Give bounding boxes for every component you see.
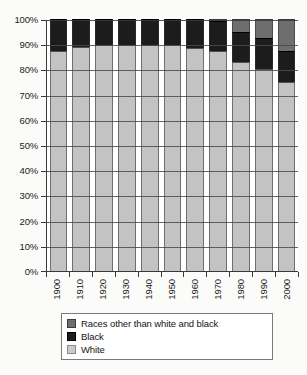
bar-segment-black bbox=[232, 32, 250, 61]
legend-swatch-icon bbox=[67, 319, 76, 328]
bar-segment-black bbox=[141, 19, 159, 45]
bar-segment-other-races bbox=[209, 19, 227, 21]
y-tick-label: 20% bbox=[20, 217, 38, 227]
x-label-slot: 1970 bbox=[206, 278, 229, 310]
x-tick-mark bbox=[275, 272, 276, 277]
x-tick-label: 1920 bbox=[99, 279, 109, 300]
bar-segment-black bbox=[278, 51, 296, 82]
x-tick-mark bbox=[183, 272, 184, 277]
bar-segment-white bbox=[141, 45, 159, 271]
bar-segment-white bbox=[255, 69, 273, 271]
bar-stack[interactable] bbox=[141, 20, 159, 271]
x-label-slot: 2000 bbox=[275, 278, 298, 310]
bar-slot bbox=[70, 20, 93, 271]
x-tick-label: 1970 bbox=[213, 279, 223, 300]
x-tick-label: 1950 bbox=[167, 279, 177, 300]
y-axis-ticks bbox=[41, 20, 47, 272]
bars-layer bbox=[47, 20, 298, 271]
bar-segment-black bbox=[186, 19, 204, 48]
bar-stack[interactable] bbox=[232, 20, 250, 271]
y-tick-mark bbox=[41, 20, 46, 21]
bar-slot bbox=[47, 20, 70, 271]
y-tick-label: 100% bbox=[15, 15, 39, 25]
y-tick-label: 10% bbox=[20, 242, 38, 252]
bar-slot bbox=[93, 20, 116, 271]
bar-stack[interactable] bbox=[95, 20, 113, 271]
x-tick-mark bbox=[69, 272, 70, 277]
bar-stack[interactable] bbox=[50, 20, 68, 271]
x-tick-label: 1990 bbox=[259, 279, 269, 300]
y-tick-mark bbox=[41, 45, 46, 46]
bar-stack[interactable] bbox=[164, 20, 182, 271]
x-tick-label: 1940 bbox=[144, 279, 154, 300]
bar-segment-other-races bbox=[278, 19, 296, 51]
bar-stack[interactable] bbox=[255, 20, 273, 271]
x-tick-mark bbox=[229, 272, 230, 277]
y-tick-label: 80% bbox=[20, 66, 38, 76]
y-tick-label: 30% bbox=[20, 192, 38, 202]
x-tick-mark bbox=[298, 272, 299, 277]
bar-segment-white bbox=[72, 47, 90, 271]
y-tick-mark bbox=[41, 171, 46, 172]
plot-area bbox=[46, 20, 298, 272]
x-label-slot: 1920 bbox=[92, 278, 115, 310]
x-label-slot: 1960 bbox=[183, 278, 206, 310]
x-tick-label: 1910 bbox=[76, 279, 86, 300]
x-label-slot: 1900 bbox=[46, 278, 69, 310]
bar-stack[interactable] bbox=[72, 20, 90, 271]
bar-segment-other-races bbox=[232, 19, 250, 32]
bar-segment-black bbox=[95, 19, 113, 45]
legend-label: Black bbox=[81, 331, 104, 342]
bar-segment-other-races bbox=[255, 19, 273, 38]
bar-segment-white bbox=[186, 48, 204, 271]
bar-segment-black bbox=[164, 19, 182, 45]
bar-stack[interactable] bbox=[186, 20, 204, 271]
bar-slot bbox=[161, 20, 184, 271]
x-tick-mark bbox=[252, 272, 253, 277]
x-tick-mark bbox=[138, 272, 139, 277]
y-tick-mark bbox=[41, 121, 46, 122]
x-tick-label: 1980 bbox=[236, 279, 246, 300]
x-axis-ticks bbox=[46, 272, 298, 278]
bar-segment-white bbox=[50, 51, 68, 272]
x-label-slot: 1980 bbox=[229, 278, 252, 310]
y-tick-label: 50% bbox=[20, 141, 38, 151]
y-tick-mark bbox=[41, 70, 46, 71]
x-label-slot: 1910 bbox=[69, 278, 92, 310]
x-tick-mark bbox=[206, 272, 207, 277]
x-label-slot: 1950 bbox=[161, 278, 184, 310]
bar-slot bbox=[184, 20, 207, 271]
bar-stack[interactable] bbox=[118, 20, 136, 271]
legend-item-black[interactable]: Black bbox=[67, 330, 267, 343]
bar-stack[interactable] bbox=[278, 20, 296, 271]
y-tick-label: 70% bbox=[20, 91, 38, 101]
y-tick-mark bbox=[41, 247, 46, 248]
legend-item-other-races[interactable]: Races other than white and black bbox=[67, 317, 267, 330]
bar-stack[interactable] bbox=[209, 20, 227, 271]
y-tick-label: 40% bbox=[20, 166, 38, 176]
y-tick-mark bbox=[41, 196, 46, 197]
bar-slot bbox=[207, 20, 230, 271]
bar-segment-white bbox=[278, 82, 296, 271]
chart-legend: Races other than white and blackBlackWhi… bbox=[61, 313, 273, 360]
y-tick-mark bbox=[41, 96, 46, 97]
y-tick-mark bbox=[41, 146, 46, 147]
x-tick-label: 2000 bbox=[282, 279, 292, 300]
bar-segment-white bbox=[118, 45, 136, 271]
x-label-slot: 1940 bbox=[138, 278, 161, 310]
x-tick-mark bbox=[115, 272, 116, 277]
x-axis: 1900191019201930194019501960197019801990… bbox=[46, 278, 298, 310]
bar-slot bbox=[115, 20, 138, 271]
bar-segment-white bbox=[164, 45, 182, 271]
bar-segment-black bbox=[209, 21, 227, 50]
bar-segment-black bbox=[118, 19, 136, 45]
x-tick-mark bbox=[92, 272, 93, 277]
x-tick-label: 1960 bbox=[190, 279, 200, 300]
legend-item-white[interactable]: White bbox=[67, 343, 267, 356]
x-tick-mark bbox=[46, 272, 47, 277]
bar-segment-white bbox=[95, 45, 113, 271]
bar-slot bbox=[230, 20, 253, 271]
bar-segment-black bbox=[50, 19, 68, 51]
x-label-slot: 1990 bbox=[252, 278, 275, 310]
legend-swatch-icon bbox=[67, 345, 76, 354]
